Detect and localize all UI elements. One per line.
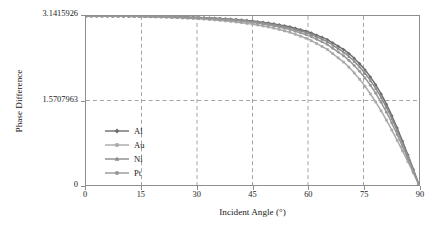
x-tick-mark [253, 186, 254, 190]
plot-area: AlAuNiPt [85, 15, 420, 186]
y-tick-mark [81, 101, 85, 102]
y-tick-label: 1.5707963 [4, 96, 78, 104]
legend-item-ni: Ni [104, 152, 145, 166]
x-tick-label: 90 [400, 191, 440, 199]
x-tick-mark [197, 186, 198, 190]
legend-marker-circle-icon [104, 167, 130, 179]
y-tick-mark [81, 186, 85, 187]
x-tick-mark [308, 186, 309, 190]
chart-legend: AlAuNiPt [104, 124, 145, 180]
legend-marker-diamond-icon [104, 125, 130, 137]
y-tick-label: 0 [4, 181, 78, 189]
legend-item-pt: Pt [104, 166, 145, 180]
x-tick-mark [141, 186, 142, 190]
legend-label: Ni [134, 155, 143, 164]
x-tick-label: 0 [65, 191, 105, 199]
y-tick-mark [81, 15, 85, 16]
phase-difference-chart: Phase Difference 01.57079633.1415926 AlA… [0, 0, 444, 231]
x-tick-mark [85, 186, 86, 190]
legend-item-al: Al [104, 124, 145, 138]
x-tick-mark [364, 186, 365, 190]
x-tick-label: 60 [288, 191, 328, 199]
x-tick-mark [420, 186, 421, 190]
x-tick-label: 30 [177, 191, 217, 199]
legend-label: Pt [134, 169, 141, 178]
x-tick-label: 45 [233, 191, 273, 199]
legend-label: Au [134, 141, 145, 150]
x-tick-label: 15 [121, 191, 161, 199]
y-tick-label: 3.1415926 [4, 10, 78, 18]
legend-label: Al [134, 127, 143, 136]
x-axis-title: Incident Angle (°) [85, 207, 420, 217]
legend-marker-triangle-icon [104, 153, 130, 165]
x-tick-label: 75 [344, 191, 384, 199]
legend-item-au: Au [104, 138, 145, 152]
legend-marker-square-icon [104, 139, 130, 151]
